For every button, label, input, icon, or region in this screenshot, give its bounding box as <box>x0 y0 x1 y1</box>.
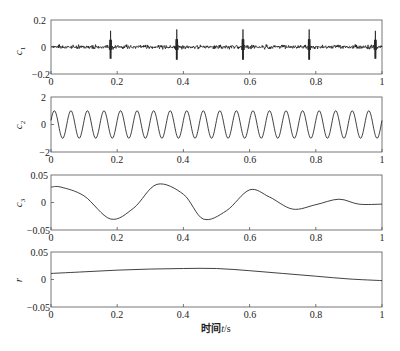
ytick-bottom: −0.05 <box>27 302 50 313</box>
x-ticks <box>51 203 382 231</box>
ytick-zero: 0 <box>41 197 46 208</box>
y-axis-label: c3 <box>12 198 27 207</box>
signal-line-c1 <box>51 29 382 59</box>
xtick: 0.4 <box>177 154 190 165</box>
xtick: 0.8 <box>310 154 323 165</box>
svg-text:r: r <box>12 277 24 282</box>
xtick: 0.4 <box>177 232 190 243</box>
y-axis-label: c2 <box>12 120 27 129</box>
xtick: 0.8 <box>310 232 323 243</box>
svg-text:c1: c1 <box>12 46 27 55</box>
y-axis-label: c1 <box>12 46 27 55</box>
x-ticks <box>51 280 382 308</box>
xtick: 0.2 <box>111 154 124 165</box>
xtick: 1 <box>380 232 385 243</box>
plot-frame <box>51 252 382 307</box>
svg-text:c3: c3 <box>12 198 27 207</box>
xtick: 0.8 <box>310 76 323 87</box>
xtick: 0.4 <box>177 309 190 320</box>
xtick: 0.4 <box>177 76 190 87</box>
plot-frame <box>51 175 382 230</box>
panel-r: 0.05 0 −0.05 r 0 0.2 0.4 0.6 0.8 1 时间t/s <box>12 247 385 334</box>
xtick: 0.2 <box>111 76 124 87</box>
x-ticks <box>51 47 382 74</box>
xtick: 0 <box>49 232 54 243</box>
xtick: 1 <box>380 309 385 320</box>
xtick: 0 <box>49 154 54 165</box>
figure: 0.2 0 −0.2 c1 0 0.2 0.4 0.6 0.8 1 2 0 −2… <box>0 0 400 351</box>
xtick: 0.6 <box>244 232 257 243</box>
svg-text:c2: c2 <box>12 120 27 129</box>
x-axis-label: 时间t/s <box>201 322 231 334</box>
x-ticks <box>51 125 382 153</box>
ytick-top: 0.05 <box>31 170 49 181</box>
panel-c2: 2 0 −2 c2 0 0.2 0.4 0.6 0.8 1 <box>12 92 385 165</box>
plot-frame <box>51 97 382 152</box>
xtick: 0.6 <box>244 76 257 87</box>
panel-c1: 0.2 0 −0.2 c1 0 0.2 0.4 0.6 0.8 1 <box>12 15 385 87</box>
ytick-bottom: −0.05 <box>27 225 50 236</box>
xtick: 0.8 <box>310 309 323 320</box>
residual-line-r <box>51 268 382 280</box>
xtick: 0 <box>49 76 54 87</box>
xtick: 1 <box>380 76 385 87</box>
xtick: 0.6 <box>244 309 257 320</box>
xtick: 0.2 <box>111 309 124 320</box>
panel-c3: 0.05 0 −0.05 c3 0 0.2 0.4 0.6 0.8 1 <box>12 170 385 243</box>
ytick-top: 2 <box>41 92 46 103</box>
xtick: 1 <box>380 154 385 165</box>
xtick: 0.2 <box>111 232 124 243</box>
ytick-top: 0.2 <box>34 15 47 26</box>
ytick-zero: 0 <box>41 119 46 130</box>
xtick: 0 <box>49 309 54 320</box>
ytick-bottom: −0.2 <box>32 69 50 80</box>
signal-line-c3 <box>51 184 382 220</box>
ytick-zero: 0 <box>41 274 46 285</box>
xtick: 0.6 <box>244 154 257 165</box>
y-axis-label: r <box>12 277 24 282</box>
signal-line-c2 <box>51 111 382 139</box>
ytick-zero: 0 <box>41 42 46 53</box>
ytick-top: 0.05 <box>31 247 49 258</box>
